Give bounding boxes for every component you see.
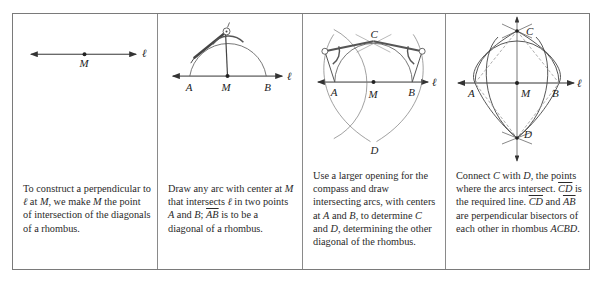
label-m: M <box>79 57 90 69</box>
label-a: A <box>467 87 475 99</box>
point-m-dot <box>83 52 87 56</box>
point-m-dot <box>226 74 230 78</box>
perpendicular-bisector-diagram: C A M B ℓ D <box>446 14 589 164</box>
label-d: D <box>523 128 532 140</box>
label-line: ℓ <box>287 70 292 82</box>
construction-steps-table: M ℓ To construct a perpendicular to ℓ at… <box>12 13 590 270</box>
compass-icon <box>191 22 244 76</box>
label-line: ℓ <box>432 76 437 88</box>
label-c: C <box>371 28 379 40</box>
step-3-panel: C A M B ℓ D Use a larger opening for the… <box>303 14 446 269</box>
label-a: A <box>185 81 193 93</box>
label-b: B <box>552 87 559 99</box>
step-4-caption: Connect C with D, the points where the a… <box>456 169 583 235</box>
label-line: ℓ <box>142 47 147 59</box>
step-1-caption: To construct a perpendicular to ℓ at M, … <box>23 182 151 235</box>
label-b: B <box>264 81 271 93</box>
step-4-figure: C A M B ℓ D <box>446 14 589 164</box>
point-m-dot <box>515 81 519 85</box>
point-m-dot <box>372 80 376 84</box>
label-m: M <box>520 87 531 99</box>
label-d: D <box>370 144 379 156</box>
step-2-caption: Draw any arc with center at M that inter… <box>168 182 296 235</box>
step-4-panel: C A M B ℓ D Connect C with D, the points… <box>446 14 589 269</box>
label-c: C <box>526 25 534 37</box>
label-b: B <box>408 86 415 98</box>
label-line: ℓ <box>577 77 582 89</box>
step-1-figure: M ℓ <box>13 14 157 164</box>
step-3-caption: Use a larger opening for the compass and… <box>313 169 439 248</box>
line-with-point-diagram: M ℓ <box>13 14 157 164</box>
step-1-panel: M ℓ To construct a perpendicular to ℓ at… <box>13 14 158 269</box>
arc-with-compass-diagram: A M B ℓ <box>158 14 302 164</box>
semicircle-arc <box>190 44 266 77</box>
step-2-panel: A M B ℓ Draw any arc with center at M th… <box>158 14 303 269</box>
step-2-figure: A M B ℓ <box>158 14 302 164</box>
label-m: M <box>368 88 379 100</box>
step-3-figure: C A M B ℓ D <box>303 14 445 164</box>
label-m: M <box>221 81 232 93</box>
label-a: A <box>330 86 338 98</box>
line-cd-notation: CD <box>558 183 572 194</box>
intersecting-arcs-diagram: C A M B ℓ D <box>303 14 445 164</box>
